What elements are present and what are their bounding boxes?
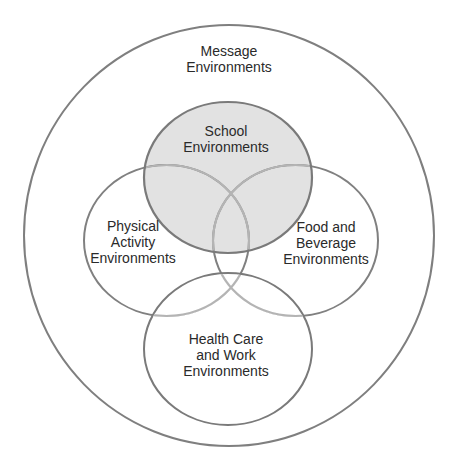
label-line: Environments (283, 251, 369, 267)
health-care-work-environments-label: Health Care and Work Environments (183, 331, 269, 379)
label-line: School (183, 123, 269, 139)
label-line: and Work (183, 347, 269, 363)
label-line: Environments (183, 139, 269, 155)
label-line: Food and (283, 219, 369, 235)
message-environments-label: Message Environments (186, 43, 272, 75)
label-line: Environments (90, 250, 176, 266)
label-line: Activity (90, 234, 176, 250)
label-line: Message (186, 43, 272, 59)
label-line: Beverage (283, 235, 369, 251)
label-line: Health Care (183, 331, 269, 347)
label-line: Physical (90, 218, 176, 234)
food-beverage-environments-label: Food and Beverage Environments (283, 219, 369, 267)
school-environments-label: School Environments (183, 123, 269, 155)
label-line: Environments (183, 363, 269, 379)
physical-activity-environments-label: Physical Activity Environments (90, 218, 176, 266)
label-line: Environments (186, 59, 272, 75)
